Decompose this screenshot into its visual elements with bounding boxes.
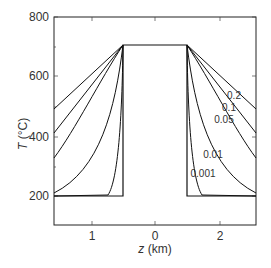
y-tick-label: 600 [29, 69, 49, 83]
x-tick-label: 1 [89, 229, 96, 243]
curve-0.1-left [54, 45, 123, 133]
x-tick-label: 0 [152, 229, 159, 243]
y-axis-title: T (°C) [16, 118, 30, 150]
left-curves [54, 45, 123, 196]
curve-label-0.05: 0.05 [214, 114, 233, 125]
curve-label-0.001: 0.001 [190, 168, 215, 179]
y-tick-label: 400 [29, 130, 49, 144]
curve-0.2-right [187, 45, 256, 109]
y-tick-label: 800 [29, 10, 49, 24]
curve-0.2-left [54, 45, 123, 109]
x-axis-title: z (km) [138, 242, 171, 256]
y-tick-label: 200 [29, 189, 49, 203]
curve-label-0.01: 0.01 [203, 149, 222, 160]
x-tick-label: 2 [217, 229, 224, 243]
curve-label-0.2: 0.2 [227, 90, 241, 101]
curve-label-0.1: 0.1 [222, 102, 236, 113]
